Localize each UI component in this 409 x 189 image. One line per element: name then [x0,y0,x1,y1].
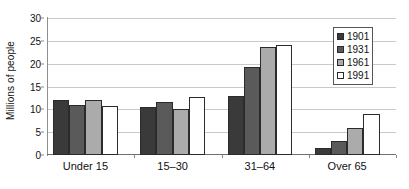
y-axis-tick-label: 10 [30,104,41,115]
bar-1961-31-64 [260,47,276,155]
y-axis-tick-mark [41,86,44,87]
bar-1901-15-30 [140,107,156,155]
y-axis-title-text: Millions of people [6,40,17,119]
bar-1901-31-64 [228,96,244,155]
bar-group [228,18,293,155]
y-axis-tick-label: 15 [30,81,41,92]
legend-item-label: 1931 [347,45,369,55]
bar-group [53,18,118,155]
bar-1931-15-30 [156,102,172,155]
bar-1931-over-65 [331,141,347,155]
y-axis-tick-mark [41,63,44,64]
y-axis-tick-mark [41,132,44,133]
y-axis-tick-label: 20 [30,58,41,69]
bar-1931-31-64 [244,67,260,155]
x-axis-tick-mark [396,155,397,158]
legend: 1901193119611991 [333,27,373,85]
bar-1901-under-15 [53,100,69,155]
bar-1991-15-30 [189,97,205,155]
y-axis-tick-mark [41,155,44,156]
legend-swatch-icon [337,72,344,79]
y-axis-tick-mark [41,18,44,19]
legend-item-1901: 1901 [337,30,369,43]
bar-1961-over-65 [347,128,363,155]
legend-swatch-icon [337,59,344,66]
bar-1961-under-15 [85,100,101,155]
x-axis-category-label: Over 65 [328,160,367,172]
legend-swatch-icon [337,46,344,53]
x-axis-category-label: 15–30 [157,160,188,172]
bar-group [140,18,205,155]
legend-item-label: 1901 [347,32,369,42]
y-axis-tick-label: 25 [30,35,41,46]
y-axis-tick-labels: 051015202530 [22,18,44,155]
legend-item-label: 1991 [347,71,369,81]
x-axis-category-label: 31–64 [245,160,276,172]
x-axis-tick-mark [134,155,135,158]
bar-1991-31-64 [276,45,292,156]
bar-1991-under-15 [102,106,118,155]
bar-1901-over-65 [315,148,331,155]
x-axis-tick-mark [222,155,223,158]
bar-1931-under-15 [69,105,85,155]
legend-swatch-icon [337,33,344,40]
y-axis-tick-mark [41,109,44,110]
legend-item-label: 1961 [347,58,369,68]
y-axis-tick-mark [41,40,44,41]
legend-item-1931: 1931 [337,43,369,56]
legend-item-1961: 1961 [337,56,369,69]
bar-chart: Millions of people 051015202530 Under 15… [0,0,409,189]
legend-item-1991: 1991 [337,69,369,82]
x-axis-category-labels: Under 1515–3031–64Over 65 [47,160,396,180]
x-axis-category-label: Under 15 [63,160,108,172]
x-axis-tick-mark [309,155,310,158]
bar-1991-over-65 [363,114,379,155]
y-axis-tick-label: 30 [30,13,41,24]
y-axis-title: Millions of people [0,0,22,160]
bar-1961-15-30 [173,109,189,155]
